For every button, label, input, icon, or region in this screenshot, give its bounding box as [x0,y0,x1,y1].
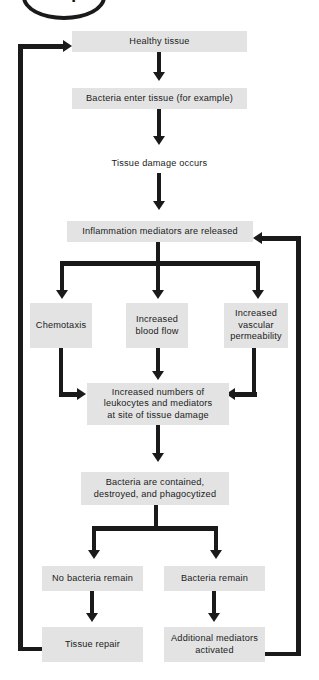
loop-badge-label: loop [22,0,106,2]
edge-leukocytes-to-contained-arrowhead [152,453,164,462]
feedback-loop-left-arrowhead [63,40,72,52]
edge-bacteria-to-damage-line [157,109,161,138]
node-mediators-released[interactable]: Inflammation mediators are released [67,221,253,242]
feedback-loop-left-top-horizontal [18,44,66,49]
edge-damage-to-mediators-line [157,173,161,203]
node-healthy-tissue[interactable]: Healthy tissue [72,31,247,52]
merge-left-vertical [59,348,63,396]
flowchart-canvas: loop Healthy tissue Bacteria enter tissu… [0,0,319,680]
branch3-right-drop [256,261,260,292]
branch3-center-arrowhead [152,290,164,299]
merge-right-horizontal [235,392,257,397]
edge-healthy-to-bacteria-line [157,52,161,74]
branch3-left-arrowhead [56,290,68,299]
branch2-right-drop [214,526,218,552]
branch2-left-arrowhead [88,550,100,559]
branch3-left-drop [60,261,64,292]
branch3-bus [60,261,260,266]
branch2-bus [92,526,218,531]
feedback-loop-right-top-horizontal [262,236,301,241]
feedback-loop-left-vertical [18,44,23,651]
node-chemotaxis[interactable]: Chemotaxis [30,303,92,348]
branch3-right-arrowhead [252,290,264,299]
edge-bacteria-to-damage-arrowhead [153,136,165,145]
feedback-loop-right-bottom-horizontal [262,652,301,657]
edge-nobacteria-to-repair-line [90,591,94,615]
merge-center-arrowhead [152,371,164,380]
feedback-loop-right-vertical [296,236,301,656]
merge-right-vertical [252,348,256,396]
branch2-right-arrowhead [210,550,222,559]
edge-nobacteria-to-repair-arrowhead [86,613,98,622]
branch2-left-drop [92,526,96,552]
node-no-bacteria-remain[interactable]: No bacteria remain [42,566,143,591]
node-additional-mediators[interactable]: Additional mediators activated [164,627,265,662]
node-bacteria-remain[interactable]: Bacteria remain [164,566,265,591]
node-tissue-repair[interactable]: Tissue repair [42,627,143,662]
node-tissue-damage[interactable]: Tissue damage occurs [72,155,247,173]
merge-left-arrowhead [77,388,86,400]
node-bacteria-contained[interactable]: Bacteria are contained, destroyed, and p… [81,472,229,505]
edge-bacteria-to-additional-arrowhead [208,613,220,622]
node-bacteria-enter[interactable]: Bacteria enter tissue (for example) [72,88,247,109]
branch3-center-drop [156,261,160,292]
edge-damage-to-mediators-arrowhead [153,201,165,210]
edge-leukocytes-to-contained-line [156,425,160,455]
loop-badge-circle [22,0,106,20]
node-increased-blood-flow[interactable]: Increased blood flow [126,303,188,348]
node-increased-leukocytes[interactable]: Increased numbers of leukocytes and medi… [87,383,229,425]
merge-center-vertical [156,348,160,373]
node-increased-permeability[interactable]: Increased vascular permeability [224,303,288,348]
feedback-loop-right-arrowhead [253,232,262,244]
edge-healthy-to-bacteria-arrowhead [153,72,165,81]
edge-bacteria-to-additional-line [212,591,216,615]
